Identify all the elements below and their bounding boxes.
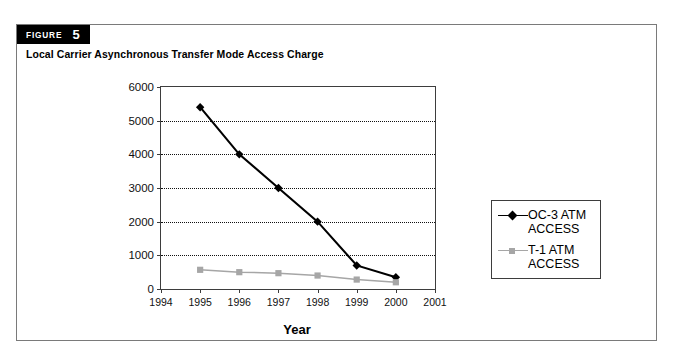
legend-item-oc3: OC-3 ATM ACCESS <box>498 208 598 236</box>
x-tick <box>435 289 436 293</box>
x-tick-label: 1995 <box>188 296 211 308</box>
series-line <box>200 107 396 277</box>
data-point-marker <box>236 269 242 275</box>
data-point-marker <box>275 270 281 276</box>
legend-item-t1: T-1 ATM ACCESS <box>498 243 598 271</box>
data-point-marker <box>197 267 203 273</box>
plot-area: 0100020003000400050006000 19941995199619… <box>160 86 436 290</box>
y-tick-label: 3000 <box>128 182 154 194</box>
x-tick <box>200 289 201 293</box>
chart-legend: OC-3 ATM ACCESS T-1 ATM ACCESS <box>491 200 601 279</box>
y-tick-label: 6000 <box>128 81 154 93</box>
legend-label-t1: T-1 ATM ACCESS <box>528 243 579 271</box>
y-tick-label: 5000 <box>128 115 154 127</box>
chart-area: 0100020003000400050006000 19941995199619… <box>17 25 658 342</box>
data-point-marker <box>354 276 360 282</box>
data-point-marker <box>393 279 399 285</box>
x-tick <box>396 289 397 293</box>
data-point-marker <box>314 272 320 278</box>
x-tick-label: 2001 <box>423 296 446 308</box>
x-tick-label: 1999 <box>345 296 368 308</box>
x-tick <box>318 289 319 293</box>
legend-label-oc3: OC-3 ATM ACCESS <box>528 208 586 236</box>
diamond-marker-icon <box>498 209 528 223</box>
y-tick-label: 0 <box>148 283 154 295</box>
series-line <box>200 270 396 282</box>
x-tick <box>239 289 240 293</box>
x-tick-label: 1996 <box>228 296 251 308</box>
figure-frame: FIGURE 5 Local Carrier Asynchronous Tran… <box>16 24 657 341</box>
y-tick-label: 2000 <box>128 216 154 228</box>
x-tick-label: 1994 <box>149 296 172 308</box>
square-marker-icon <box>498 244 528 258</box>
x-tick-label: 1998 <box>306 296 329 308</box>
x-tick-label: 1997 <box>267 296 290 308</box>
x-tick <box>357 289 358 293</box>
x-tick <box>278 289 279 293</box>
x-tick <box>161 289 162 293</box>
x-axis-title: Year <box>160 322 434 337</box>
y-tick-label: 4000 <box>128 148 154 160</box>
y-tick-label: 1000 <box>128 249 154 261</box>
x-tick-label: 2000 <box>384 296 407 308</box>
data-series-layer <box>161 87 435 289</box>
